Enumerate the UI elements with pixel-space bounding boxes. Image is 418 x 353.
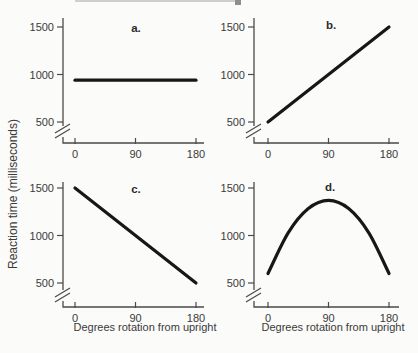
- y-tick-label-c: 1500: [30, 182, 54, 194]
- x-tick-label-d: 0: [265, 312, 271, 324]
- x-tick-label-c: 90: [129, 312, 141, 324]
- y-tick-label-a: 500: [36, 116, 54, 128]
- y-tick-label-b: 1000: [221, 69, 245, 81]
- x-tick-label-b: 180: [380, 148, 398, 160]
- x-tick-label-d: 90: [322, 312, 334, 324]
- x-tick-label-b: 90: [322, 148, 334, 160]
- y-axis-break-b: [246, 124, 261, 138]
- y-tick-label-d: 1000: [221, 230, 245, 242]
- data-line-d: [268, 200, 389, 273]
- y-tick-label-b: 1500: [221, 21, 245, 33]
- y-tick-label-a: 1500: [30, 21, 54, 33]
- y-axis-break-c: [55, 288, 70, 302]
- y-tick-label-a: 1000: [30, 69, 54, 81]
- x-tick-label-a: 180: [187, 148, 205, 160]
- x-tick-label-d: 180: [380, 312, 398, 324]
- x-tick-label-a: 0: [72, 148, 78, 160]
- y-tick-label-d: 1500: [221, 182, 245, 194]
- x-tick-label-c: 180: [187, 312, 205, 324]
- axes-c: [63, 182, 204, 307]
- x-tick-label-c: 0: [72, 312, 78, 324]
- x-tick-label-b: 0: [265, 148, 271, 160]
- data-line-b: [268, 27, 389, 122]
- y-tick-label-c: 500: [36, 277, 54, 289]
- y-axis-break-d: [246, 288, 261, 302]
- figure-mental-rotation-charts: Reaction time (milliseconds) a. b. c. d.…: [0, 0, 418, 353]
- y-tick-label-c: 1000: [30, 230, 54, 242]
- x-tick-label-a: 90: [129, 148, 141, 160]
- data-line-c: [75, 188, 196, 283]
- charts-canvas: 5001000150009018050010001500090180500100…: [0, 0, 418, 353]
- y-tick-label-b: 500: [227, 116, 245, 128]
- y-axis-break-a: [55, 124, 70, 138]
- y-tick-label-d: 500: [227, 277, 245, 289]
